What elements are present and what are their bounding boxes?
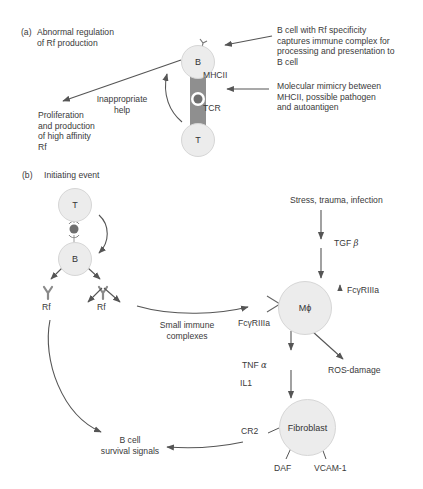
cr2-receptor-line bbox=[268, 428, 279, 433]
t-cell-a: T bbox=[181, 123, 215, 157]
cr2-label: CR2 bbox=[241, 426, 258, 437]
mimicry-note: Molecular mimicry between MHCII, possibl… bbox=[277, 81, 381, 113]
arrow-b-to-rf-left bbox=[51, 268, 62, 279]
ros-damage-label: ROS-damage bbox=[328, 365, 381, 376]
b-cell-survival-signals-label: B cell survival signals bbox=[90, 435, 170, 456]
arrow-t-to-b bbox=[99, 215, 107, 253]
arrow-rf-to-survival bbox=[48, 320, 101, 432]
vcam-1-label: VCAM-1 bbox=[314, 463, 346, 474]
panel-b-tag: (b) bbox=[22, 170, 33, 181]
arrow-rf-right-split-left bbox=[88, 288, 102, 302]
rf-right-label: Rf bbox=[97, 302, 106, 313]
arrow-immune-complexes bbox=[137, 306, 248, 313]
small-immune-complexes-label: Small immune complexes bbox=[152, 320, 222, 341]
panel-a-title: Abnormal regulation of Rf production bbox=[37, 27, 114, 48]
panel-b-title: Initiating event bbox=[44, 170, 99, 181]
tcr-label: TCR bbox=[203, 103, 221, 114]
tgf-beta-label: TGF β bbox=[334, 238, 359, 249]
proliferation-label: Proliferation and production of high aff… bbox=[38, 110, 95, 152]
inappropriate-help-label: Inappropriate help bbox=[92, 94, 152, 115]
arrow-rf-right-split-right bbox=[104, 288, 120, 302]
stress-label: Stress, trauma, infection bbox=[290, 195, 383, 206]
capture-note: B cell with Rf specificity captures immu… bbox=[277, 25, 395, 67]
tnf-alpha-label: TNF α bbox=[242, 360, 267, 371]
panel-a-tag: (a) bbox=[21, 27, 32, 38]
b-cell-b-label: B bbox=[72, 254, 78, 264]
beta-symbol: β bbox=[354, 238, 359, 248]
daf-label: DAF bbox=[274, 463, 291, 474]
t-cell-b-label: T bbox=[72, 200, 78, 210]
rf-left-label: Rf bbox=[42, 302, 51, 313]
fibroblast-cell: Fibroblast bbox=[279, 399, 336, 456]
arrow-inappropriate-help bbox=[165, 74, 182, 122]
arrow-macrophage-to-ros bbox=[313, 332, 343, 359]
il1-label: IL1 bbox=[240, 378, 252, 389]
b-cell-b: B bbox=[58, 242, 92, 276]
fc-receptor-up-label: FcγRIIIa bbox=[347, 285, 379, 296]
b-cell-a-label: B bbox=[195, 57, 201, 67]
t-cell-b: T bbox=[58, 188, 92, 222]
rf-right-antibody-icon bbox=[99, 287, 107, 299]
fibroblast-label: Fibroblast bbox=[288, 423, 328, 433]
alpha-symbol: α bbox=[261, 360, 267, 370]
fc-receptor-left-label: FcγRIIIa bbox=[238, 318, 270, 329]
arrow-cr2-to-survival bbox=[167, 442, 243, 448]
mhcii-label: MHCII bbox=[203, 70, 227, 81]
rf-left-antibody-icon bbox=[44, 287, 52, 299]
arrow-capture-note bbox=[225, 36, 272, 45]
t-cell-a-label: T bbox=[195, 135, 201, 145]
arrow-b-to-rf-right bbox=[88, 268, 100, 279]
macrophage-label: Mϕ bbox=[299, 303, 312, 313]
macrophage-cell: Mϕ bbox=[278, 281, 332, 335]
